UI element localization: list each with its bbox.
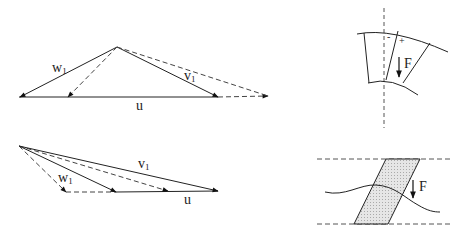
u-label: u: [136, 98, 143, 113]
force-label: F: [419, 179, 427, 194]
w1-label: w1: [52, 60, 67, 76]
u-dashed-extension: [218, 96, 268, 97]
w-dashed-vector: [68, 47, 117, 97]
v1-label: v1: [138, 156, 150, 172]
u-label: u: [184, 192, 191, 207]
v-dashed-vector: [117, 47, 268, 96]
top-velocity-triangle: w1 v1 u: [19, 47, 268, 113]
plus-sign: +: [399, 35, 405, 46]
blade-sector: - + F: [357, 8, 448, 128]
bottom-velocity-triangle: w1 v1 u: [19, 146, 218, 207]
inner-arc: [368, 81, 418, 95]
left-blade-edge: [364, 33, 369, 83]
force-label: F: [404, 56, 412, 71]
v1-vector: [19, 146, 218, 191]
v1-label: v1: [184, 68, 196, 84]
hatched-blade: [354, 159, 420, 224]
minus-sign: -: [387, 31, 390, 42]
v1-vector: [117, 47, 218, 97]
w1-vector: [20, 47, 117, 97]
diagram-canvas: w1 v1 u w1 v1 u - + F F: [0, 0, 467, 234]
w1-label: w1: [58, 170, 73, 186]
blade-passage: F: [317, 159, 452, 224]
